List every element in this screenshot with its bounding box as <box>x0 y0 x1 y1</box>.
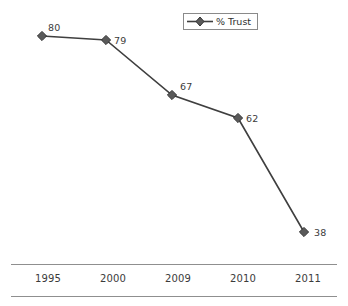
x-axis-tick-label: 2000 <box>100 274 126 284</box>
x-axis-tick-label: 1995 <box>35 274 61 284</box>
diamond-marker-icon <box>187 15 213 28</box>
x-axis-tick-label: 2011 <box>295 274 321 284</box>
x-axis: 19952000200920102011 <box>11 264 337 297</box>
data-point-value-label: 79 <box>114 36 126 46</box>
x-axis-tick-label: 2009 <box>165 274 191 284</box>
legend-label-trust: % Trust <box>216 17 251 27</box>
data-point-marker <box>233 113 242 122</box>
series-line-trust <box>42 36 304 232</box>
data-point-marker <box>299 227 308 236</box>
x-axis-tick-label: 2010 <box>230 274 256 284</box>
data-point-marker <box>37 31 46 40</box>
x-axis-tick-labels: 19952000200920102011 <box>11 264 337 296</box>
data-point-value-label: 80 <box>48 23 60 33</box>
data-point-value-label: 38 <box>314 228 326 238</box>
data-point-value-label: 62 <box>246 114 258 124</box>
data-point-value-label: 67 <box>180 82 192 92</box>
axis-rule-bottom <box>11 296 337 297</box>
plot-area <box>0 0 348 306</box>
series-markers-trust <box>37 31 308 236</box>
line-chart: 8079676238 % Trust 19952000200920102011 <box>0 0 348 306</box>
chart-legend: % Trust <box>183 13 258 30</box>
